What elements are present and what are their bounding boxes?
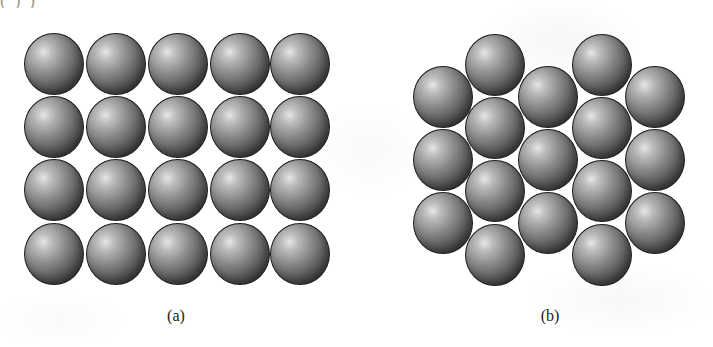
sphere-b-c1-r1 <box>413 66 473 128</box>
sphere-a-r2-c1 <box>24 96 84 158</box>
sphere-a-r3-c1 <box>24 159 84 221</box>
sphere-a-r4-c5 <box>270 223 330 285</box>
sphere-a-r2-c5 <box>270 96 330 158</box>
sphere-a-r3-c4 <box>210 159 270 221</box>
sphere-a-r3-c5 <box>270 159 330 221</box>
sphere-a-r4-c1 <box>24 223 84 285</box>
sphere-b-c2-r1 <box>465 34 525 96</box>
panel-b-hexagonal-packing <box>360 0 713 347</box>
sphere-a-r4-c4 <box>210 223 270 285</box>
caption-b: (b) <box>541 306 560 326</box>
sphere-b-c4-r1 <box>572 34 632 96</box>
sphere-a-r4-c3 <box>148 223 208 285</box>
sphere-a-r1-c5 <box>270 33 330 95</box>
sphere-b-c5-r2 <box>625 129 685 191</box>
sphere-a-r2-c3 <box>148 96 208 158</box>
sphere-b-c4-r4 <box>572 224 632 286</box>
sphere-b-c2-r2 <box>465 97 525 159</box>
sphere-b-c1-r2 <box>413 129 473 191</box>
sphere-a-r3-c2 <box>86 159 146 221</box>
sphere-b-c2-r4 <box>465 224 525 286</box>
sphere-a-r1-c1 <box>24 33 84 95</box>
sphere-b-c5-r1 <box>625 66 685 128</box>
sphere-b-c3-r3 <box>518 192 578 254</box>
sphere-a-r3-c3 <box>148 159 208 221</box>
sphere-a-r1-c2 <box>86 33 146 95</box>
panel-a-square-packing <box>0 0 360 347</box>
sphere-b-c4-r3 <box>572 160 632 222</box>
sphere-b-c4-r2 <box>572 97 632 159</box>
sphere-a-r1-c4 <box>210 33 270 95</box>
sphere-b-c5-r3 <box>625 192 685 254</box>
sphere-b-c3-r1 <box>518 66 578 128</box>
sphere-a-r2-c2 <box>86 96 146 158</box>
sphere-a-r4-c2 <box>86 223 146 285</box>
sphere-b-c3-r2 <box>518 129 578 191</box>
sphere-a-r2-c4 <box>210 96 270 158</box>
caption-a: (a) <box>167 306 185 326</box>
sphere-a-r1-c3 <box>148 33 208 95</box>
sphere-b-c1-r3 <box>413 192 473 254</box>
sphere-b-c2-r3 <box>465 160 525 222</box>
